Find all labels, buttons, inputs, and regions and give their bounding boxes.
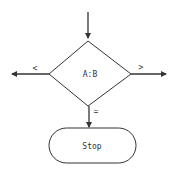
flowchart: A:B < > = Stop: [0, 0, 176, 175]
equal-label: =: [94, 107, 99, 116]
decision-label: A:B: [83, 70, 98, 79]
greater-than-label: >: [139, 63, 144, 72]
less-than-label: <: [33, 64, 38, 73]
stop-label: Stop: [82, 142, 101, 151]
